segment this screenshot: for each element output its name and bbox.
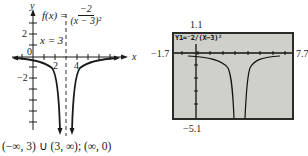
calculator-plot [174,34,292,118]
domain-range-text: (−∞, 3) ∪ (3, ∞); (∞, 0) [2,141,111,153]
x-tick-label-2: 2 [53,61,58,71]
x-tick-label-4: 4 [74,61,79,71]
function-formula: f(x) = −2 (x − 3)² [42,4,102,26]
denominator: (x − 3)² [69,16,102,27]
x-axis-arrow-icon [121,55,128,60]
left-down-arrow-icon [58,128,63,135]
function-name: f(x) = [42,10,67,21]
window-ymin-label: −5.1 [183,124,201,134]
right-down-arrow-icon [70,128,75,135]
calculator-screen: Y1=⁻2/(X−3)² [172,32,294,120]
fraction: −2 (x − 3)² [69,4,102,26]
calculator-equation: Y1=⁻2/(X−3)² [175,34,222,42]
left-end-arrow-icon [12,56,18,61]
origin-label: 0 [27,47,32,57]
x-axis-label: x [132,52,136,62]
window-ymax-label: 1.1 [190,20,203,30]
right-end-arrow-icon [114,56,120,61]
y-axis-label: y [30,1,34,11]
asymptote-label: x = 3 [40,35,63,46]
calc-right-curve [245,56,280,118]
numerator: −2 [78,4,94,16]
y-tick-label-neg2: −2 [17,73,28,83]
window-xmin-label: −1.7 [151,49,169,59]
y-tick-label-2: 2 [22,29,27,39]
window-xmax-label: 7.7 [296,49,308,59]
